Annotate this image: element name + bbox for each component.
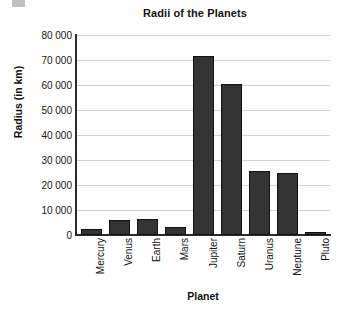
bar (81, 229, 102, 235)
y-axis-tick-labels: 80 00070 00060 00050 00040 00030 00020 0… (0, 35, 72, 235)
y-tick-label: 0 (4, 230, 72, 241)
x-tick-label: Neptune (292, 238, 303, 290)
bar-chart: Radii of the Planets 80 00070 00060 0005… (0, 0, 339, 310)
x-axis-tick-labels: MercuryVenusEarthMarsJupiterSaturnUranus… (77, 238, 330, 290)
y-tick-label: 10 000 (4, 205, 72, 216)
x-tick-label: Venus (123, 238, 134, 290)
x-tick-label: Mars (179, 238, 190, 290)
y-tick-label: 20 000 (4, 180, 72, 191)
scan-artifact (12, 0, 25, 7)
bar (221, 84, 242, 235)
bar (109, 220, 130, 235)
bar-series (77, 35, 330, 235)
x-tick-label: Earth (151, 238, 162, 290)
bar (137, 219, 158, 235)
y-axis-title: Radius (in km) (12, 47, 24, 157)
bar (305, 232, 326, 235)
bar (165, 227, 186, 236)
y-tick-label: 80 000 (4, 30, 72, 41)
x-tick-label: Jupiter (208, 238, 219, 290)
x-axis-title: Planet (76, 290, 330, 302)
bar (277, 173, 298, 235)
bar (249, 171, 270, 235)
x-tick-label: Saturn (236, 238, 247, 290)
x-tick-label: Uranus (264, 238, 275, 290)
x-tick-label: Mercury (95, 238, 106, 290)
bar (193, 56, 214, 235)
chart-title: Radii of the Planets (60, 7, 330, 19)
x-tick-label: Pluto (320, 238, 331, 290)
